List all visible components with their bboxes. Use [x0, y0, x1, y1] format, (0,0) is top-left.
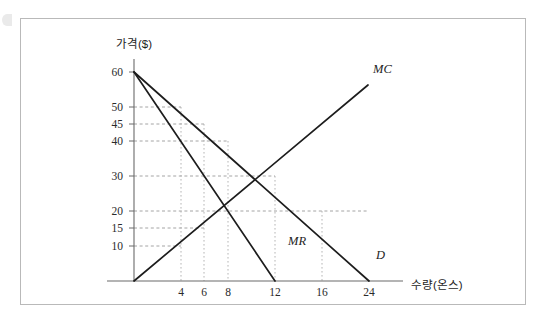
- ytick-label-15: 15: [112, 222, 124, 234]
- xtick-label-16: 16: [316, 286, 328, 298]
- economics-chart: 60 50 45 40 30 20 15 10 4 6 8 12 16 24 가…: [21, 19, 527, 306]
- ytick-label-30: 30: [112, 170, 124, 182]
- left-edge-artifact: [2, 14, 12, 26]
- ytick-label-20: 20: [112, 205, 124, 217]
- ytick-label-60: 60: [112, 66, 124, 78]
- y-axis-ticks: [129, 72, 134, 246]
- xtick-label-6: 6: [201, 286, 207, 298]
- xtick-label-8: 8: [225, 286, 231, 298]
- ytick-label-50: 50: [112, 101, 124, 113]
- curve-label-mr: MR: [287, 234, 306, 248]
- figure-frame: 60 50 45 40 30 20 15 10 4 6 8 12 16 24 가…: [20, 18, 526, 305]
- curve-label-d: D: [375, 248, 385, 262]
- curve-label-mc: MC: [372, 62, 392, 76]
- ytick-label-45: 45: [112, 118, 124, 130]
- x-axis-title: 수량(온스): [411, 279, 463, 291]
- xtick-label-24: 24: [363, 286, 375, 298]
- xtick-label-12: 12: [269, 286, 281, 298]
- curve-demand: [134, 72, 369, 281]
- curve-marginal-revenue: [134, 72, 275, 281]
- curve-marginal-cost: [134, 85, 368, 281]
- xtick-label-4: 4: [178, 286, 184, 298]
- y-axis-title: 가격($): [116, 37, 152, 50]
- ytick-label-10: 10: [112, 240, 124, 252]
- ytick-label-40: 40: [112, 135, 124, 147]
